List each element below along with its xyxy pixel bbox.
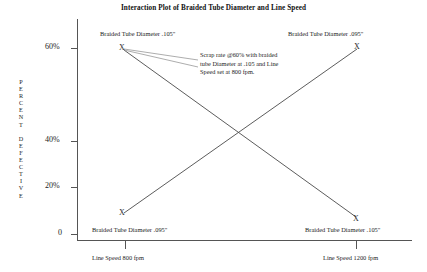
y-axis-title: P E R C E N T D E F E C T I V E (16, 78, 26, 199)
x-axis-tick-label-1200: Line Speed 1200 fpm (323, 254, 378, 261)
annotation-line-3: Speed set at 800 fpm. (200, 68, 316, 77)
x-axis-tick-label-800: Line Speed 800 fpm (92, 254, 144, 261)
y-title-letter: C (16, 163, 26, 170)
y-title-letter: T (16, 170, 26, 177)
y-axis-tick-label-0: 0 (58, 228, 62, 237)
data-point-marker-bottom-left[interactable]: X (119, 209, 125, 217)
y-title-letter: E (16, 106, 26, 113)
y-title-letter: P (16, 78, 26, 85)
y-axis-tick-label-60: 60% (45, 42, 60, 51)
data-point-marker-bottom-right[interactable]: X (353, 215, 359, 223)
y-title-letter: E (16, 142, 26, 149)
data-point-marker-top-right[interactable]: X (354, 43, 360, 51)
data-point-marker-top-left[interactable]: X (119, 44, 125, 52)
y-title-letter: T (16, 121, 26, 128)
y-title-letter: R (16, 92, 26, 99)
y-title-letter: I (16, 177, 26, 184)
series-label-bottom-left: Braided Tube Diameter .095" (92, 226, 167, 233)
series-label-top-right: Braided Tube Diameter .095" (288, 30, 363, 37)
y-title-letter (16, 128, 26, 135)
y-title-letter: F (16, 149, 26, 156)
y-title-letter: E (16, 192, 26, 199)
y-axis-tick-label-40: 40% (45, 135, 60, 144)
annotation-line-2: tube Diameter at .105 and Line (200, 60, 316, 69)
annotation-line-1: Scrap rate @60% with braided (200, 51, 316, 60)
y-title-letter: C (16, 99, 26, 106)
interaction-plot-figure: Interaction Plot of Braided Tube Diamete… (0, 0, 427, 272)
series-label-bottom-right: Braided Tube Diameter .105" (305, 226, 380, 233)
y-title-letter: N (16, 113, 26, 120)
y-title-letter: V (16, 184, 26, 191)
y-title-letter: E (16, 85, 26, 92)
series-label-top-left: Braided Tube Diameter .105" (100, 30, 175, 37)
annotation-callout: Scrap rate @60% with braided tube Diamet… (200, 51, 316, 77)
y-axis-tick-label-20: 20% (45, 181, 60, 190)
y-title-letter: D (16, 135, 26, 142)
y-title-letter: E (16, 156, 26, 163)
